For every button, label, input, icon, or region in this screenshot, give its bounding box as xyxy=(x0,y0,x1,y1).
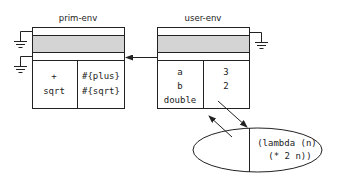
frame-user-env: user-env a b double 3 2 xyxy=(157,12,250,109)
ground-icon xyxy=(14,57,32,73)
binding-var: sqrt xyxy=(43,86,65,96)
binding-var: b xyxy=(177,81,182,91)
binding-value: #{sqrt} xyxy=(82,86,120,96)
shaded-band xyxy=(158,35,249,52)
binding-var: + xyxy=(51,71,57,81)
binding-var: double xyxy=(164,95,197,105)
procedure-code-line: (* 2 n)) xyxy=(268,151,311,161)
frame-prim-env: prim-env + sqrt #{plus} #{sqrt} xyxy=(32,12,125,109)
ground-icon xyxy=(14,32,32,48)
ground-icon xyxy=(249,33,268,49)
binding-var: a xyxy=(177,67,182,77)
binding-to-procedure-arrow xyxy=(218,101,247,127)
frame-title-prim-env: prim-env xyxy=(59,12,97,23)
binding-value: 2 xyxy=(223,81,228,91)
frame-title-user-env: user-env xyxy=(185,12,222,23)
procedure-ellipse xyxy=(193,128,322,172)
binding-value: 3 xyxy=(223,67,228,77)
shaded-band xyxy=(33,35,124,52)
binding-value: #{plus} xyxy=(82,71,120,81)
procedure-code-line: (lambda (n) xyxy=(257,138,317,148)
environment-diagram: prim-env + sqrt #{plus} #{sqrt} user-env… xyxy=(0,0,337,182)
procedure-object: (lambda (n) (* 2 n)) xyxy=(193,128,322,172)
